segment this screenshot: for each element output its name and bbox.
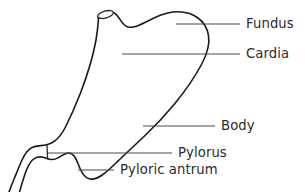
- label-pyloric-antrum: Pyloric antrum: [120, 163, 218, 176]
- stomach-diagram: Fundus Cardia Body Pylorus Pyloric antru…: [0, 0, 305, 192]
- stomach-outline: [9, 18, 99, 192]
- label-pylorus: Pylorus: [178, 146, 227, 159]
- label-fundus: Fundus: [246, 17, 294, 30]
- pyloric-sphincter-marker: [47, 145, 48, 159]
- label-cardia: Cardia: [246, 47, 289, 60]
- greater-curvature: [115, 12, 209, 161]
- duodenum-lower-wall: [20, 153, 119, 192]
- label-body: Body: [221, 119, 255, 132]
